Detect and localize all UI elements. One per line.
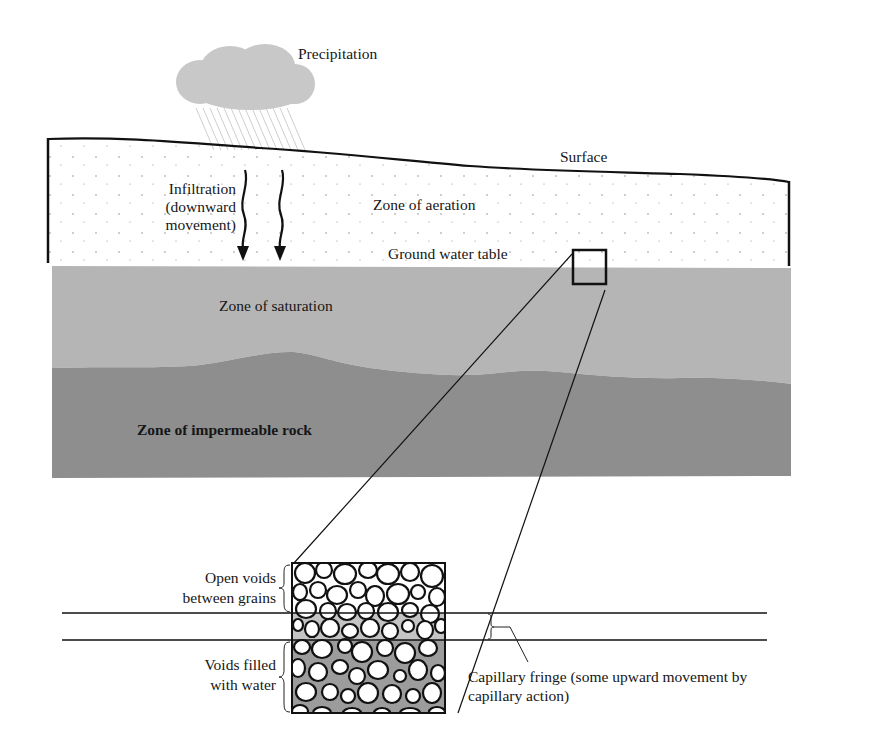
infiltration-label-line3: movement) — [165, 216, 236, 234]
surface-label: Surface — [560, 148, 607, 165]
brace-open-voids — [279, 565, 290, 612]
open-voids-label-line1: Open voids — [205, 569, 276, 586]
capillary-label-line2: capillary action) — [468, 687, 569, 705]
precipitation-label: Precipitation — [298, 45, 377, 62]
zone-saturation-label: Zone of saturation — [219, 297, 333, 314]
zone-aeration-label: Zone of aeration — [373, 196, 476, 213]
zone-impermeable-label: Zone of impermeable rock — [137, 421, 312, 438]
diagram-canvas: Precipitation Surface Infiltration (down… — [0, 0, 871, 747]
brace-capillary-fringe — [488, 614, 494, 639]
open-voids-label-line2: between grains — [183, 589, 276, 606]
capillary-label-line1: Capillary fringe (some upward movement b… — [468, 668, 748, 686]
zone-saturation-area — [52, 266, 791, 384]
groundwater-diagram: Precipitation Surface Infiltration (down… — [0, 0, 871, 747]
capillary-pointer-line — [494, 627, 528, 662]
voids-filled-label-line2: with water — [210, 676, 277, 693]
brace-filled-voids — [279, 642, 290, 712]
infiltration-label-line1: Infiltration — [169, 180, 236, 197]
rain-cloud-icon — [176, 44, 315, 150]
ground-water-table-label: Ground water table — [388, 245, 508, 262]
voids-filled-label-line1: Voids filled — [204, 656, 276, 673]
infiltration-label-line2: (downward — [165, 198, 236, 216]
